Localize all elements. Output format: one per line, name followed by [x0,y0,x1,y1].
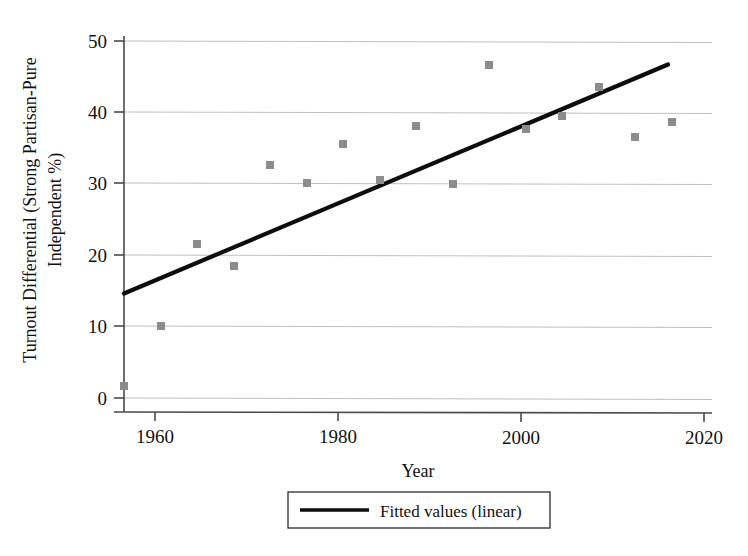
data-point [595,83,603,91]
y-axis-title-line2: Independent %) [45,153,66,267]
data-point [449,180,457,188]
y-tick-label-50: 50 [88,31,107,52]
data-point [193,240,201,248]
data-point [339,140,347,148]
fitted-values-line [124,65,668,294]
gridline-50 [124,41,712,43]
data-point [157,322,165,330]
scatter-markers [120,61,676,390]
legend-label-fitted: Fitted values (linear) [380,502,522,521]
data-point [376,176,384,184]
y-axis-title-line1: Turnout Differential (Strong Partisan-Pu… [20,57,41,362]
x-tick-label-2000: 2000 [502,427,540,448]
x-axis-title: Year [401,461,434,481]
y-axis [114,36,124,412]
x-tick-label-1960: 1960 [136,426,174,447]
gridline-10 [124,326,712,328]
chart-legend: Fitted values (linear) [288,492,550,528]
data-point [522,125,530,133]
x-tick-label-1980: 1980 [319,426,357,447]
chart-figure: 50 40 30 20 10 0 1960 1980 2000 2020 Yea… [0,0,748,556]
y-tick-label-40: 40 [88,102,107,123]
gridlines [124,41,712,400]
data-point [558,112,566,120]
y-tick-labels: 50 40 30 20 10 0 [88,31,107,409]
y-tick-label-20: 20 [88,245,107,266]
y-tick-label-30: 30 [88,173,107,194]
data-point [266,161,274,169]
scatter-plot-svg: 50 40 30 20 10 0 1960 1980 2000 2020 Yea… [0,0,748,556]
data-point [303,179,311,187]
gridline-0 [124,398,712,400]
caption-strip [0,534,748,556]
x-tick-label-2020: 2020 [685,427,723,448]
data-point [120,382,128,390]
data-point [485,61,493,69]
y-tick-label-0: 0 [98,388,108,409]
x-axis [114,412,712,422]
data-point [230,262,238,270]
data-point [668,118,676,126]
gridline-30 [124,183,712,185]
y-tick-label-10: 10 [88,316,107,337]
x-axis-spine [114,412,712,413]
x-tick-labels: 1960 1980 2000 2020 [136,426,723,448]
data-point [412,122,420,130]
gridline-40 [124,112,712,114]
data-point [631,133,639,141]
